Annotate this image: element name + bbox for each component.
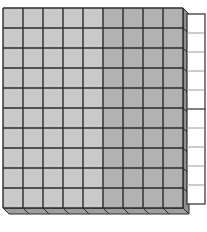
- flat-block-9x10: [3, 8, 189, 214]
- base-ten-blocks-diagram: [0, 0, 207, 232]
- flat-bottom-face: [3, 208, 189, 214]
- rod-block-10: [187, 14, 205, 204]
